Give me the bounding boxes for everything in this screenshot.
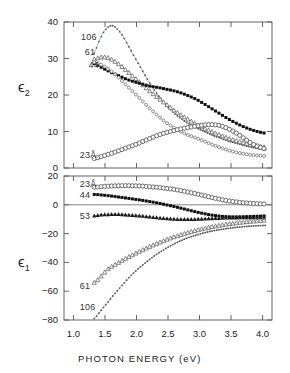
- x-tick-label: 3.0: [186, 328, 214, 339]
- y-tick-label-epsilon1: −60: [12, 285, 58, 296]
- curve-44: [93, 62, 267, 134]
- y-tick-label-epsilon1: −20: [12, 228, 58, 239]
- y-tick-label-epsilon2: 30: [20, 53, 58, 64]
- y-tick-label-epsilon1: −80: [12, 314, 58, 325]
- curve-line-106: [94, 225, 266, 318]
- curve-line-44: [94, 64, 266, 134]
- curve-61: [92, 218, 266, 284]
- curve-53: [92, 212, 266, 221]
- y-tick-label-epsilon2: 20: [20, 89, 58, 100]
- curve-label-epsilon1: 44: [80, 190, 90, 200]
- curve-label-epsilon2: 61: [85, 47, 95, 57]
- x-tick-label: 1.5: [91, 328, 119, 339]
- x-tick-label: 2.5: [154, 328, 182, 339]
- x-tick-label: 2.0: [122, 328, 150, 339]
- curve-106: [93, 225, 266, 320]
- y-tick-label-epsilon1: −40: [12, 256, 58, 267]
- y-tick-label-epsilon1: 20: [12, 170, 58, 181]
- curve-line-44: [94, 194, 266, 216]
- figure-dielectric-function-plot: ϵ2 ϵ1 PHOTON ENERGY (eV) 1.01.52.02.53.0…: [0, 0, 290, 373]
- panel-frame-epsilon1: [64, 176, 272, 320]
- x-tick-label: 1.0: [59, 328, 87, 339]
- curve-label-epsilon2: 106: [81, 32, 97, 42]
- curve-label-epsilon1: 106: [80, 302, 96, 312]
- curve-23: [92, 184, 266, 206]
- curve-label-epsilon2: 44: [89, 60, 99, 70]
- curve-label-epsilon2: 23Å: [80, 150, 97, 160]
- x-tick-label: 3.5: [217, 328, 245, 339]
- curve-label-epsilon1: 23Å: [80, 179, 97, 189]
- curve-label-epsilon1: 61: [80, 281, 90, 291]
- curve-line-61: [94, 220, 266, 282]
- panel-frame-epsilon2: [64, 22, 272, 168]
- y-tick-label-epsilon2: 40: [20, 16, 58, 27]
- curve-label-epsilon1: 53: [80, 211, 90, 221]
- y-tick-label-epsilon2: 10: [20, 126, 58, 137]
- x-tick-label: 4.0: [249, 328, 277, 339]
- y-tick-label-epsilon1: 0: [12, 199, 58, 210]
